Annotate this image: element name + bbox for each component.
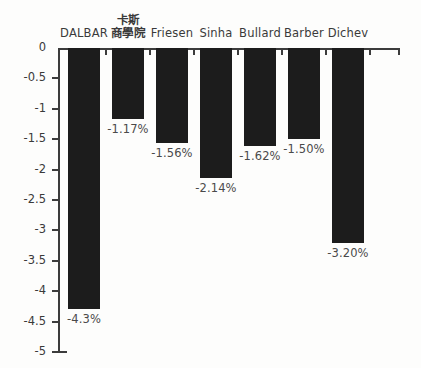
x-axis-tick (105, 48, 107, 55)
axis-top-cap (398, 48, 400, 55)
y-axis-tick-label: -3 (0, 222, 46, 236)
x-axis-tick (325, 48, 327, 55)
y-axis-tick (52, 260, 59, 262)
x-axis-tick (369, 48, 371, 55)
bar-chart: 0-0.5-1-1.5-2-2.5-3-3.5-4-4.5-5DALBAR-4.… (0, 0, 421, 368)
y-axis-tick-label: -4.5 (0, 314, 46, 328)
y-axis-tick-label: -2.5 (0, 192, 46, 206)
bar-5[interactable] (288, 48, 320, 139)
category-label-6: Dichev (308, 27, 388, 40)
y-axis-tick-label: -1 (0, 101, 46, 115)
y-axis-tick-label: -1.5 (0, 131, 46, 145)
y-axis-tick-label: -5 (0, 344, 46, 358)
y-axis-tick (52, 169, 59, 171)
value-label-3: -2.14% (176, 181, 256, 195)
bar-0[interactable] (68, 48, 100, 309)
y-axis-tick (52, 351, 59, 353)
bar-6[interactable] (332, 48, 364, 243)
axis-bottom-cap (58, 351, 67, 353)
y-axis-tick (52, 290, 59, 292)
value-label-0: -4.3% (44, 312, 124, 326)
y-axis-tick (52, 199, 59, 201)
y-axis-tick-label: -0.5 (0, 70, 46, 84)
y-axis-tick-label: 0 (0, 40, 46, 54)
y-axis-tick (52, 108, 59, 110)
x-axis-tick (237, 48, 239, 55)
category-label-line: Dichev (308, 27, 388, 40)
y-axis-tick (52, 138, 59, 140)
x-axis-tick (281, 48, 283, 55)
bar-4[interactable] (244, 48, 276, 146)
bar-2[interactable] (156, 48, 188, 143)
y-axis-tick-label: -2 (0, 162, 46, 176)
y-axis-tick (52, 77, 59, 79)
y-axis-tick (52, 229, 59, 231)
y-axis-tick-label: -4 (0, 283, 46, 297)
y-axis-tick-label: -3.5 (0, 253, 46, 267)
bar-1[interactable] (112, 48, 144, 119)
x-axis-tick (149, 48, 151, 55)
value-label-6: -3.20% (308, 246, 388, 260)
x-axis-tick (193, 48, 195, 55)
